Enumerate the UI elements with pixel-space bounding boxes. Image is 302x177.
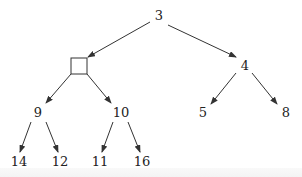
tree-edges xyxy=(20,22,277,152)
node-5: 5 xyxy=(199,105,207,120)
node-3: 3 xyxy=(155,8,163,23)
bottom-shadow xyxy=(0,168,302,177)
tree-diagram: 349105814121116 xyxy=(0,0,302,177)
tree-nodes: 349105814121116 xyxy=(11,8,290,169)
edge-empty-n9 xyxy=(46,74,71,103)
edge-n9-n12 xyxy=(46,122,58,152)
node-16: 16 xyxy=(134,154,151,169)
edge-n4-n8 xyxy=(252,73,277,104)
edge-root-empty xyxy=(88,22,150,57)
node-4: 4 xyxy=(241,58,249,73)
node-8: 8 xyxy=(282,105,290,120)
edge-n10-n11 xyxy=(102,122,113,152)
node-14: 14 xyxy=(11,154,28,169)
edge-root-n4 xyxy=(168,25,236,57)
node-12: 12 xyxy=(52,154,69,169)
node-11: 11 xyxy=(92,154,109,169)
edge-n4-n5 xyxy=(211,73,236,104)
node-9: 9 xyxy=(34,105,42,120)
edge-n9-n14 xyxy=(20,122,31,152)
edge-n10-n16 xyxy=(128,122,140,152)
node-10: 10 xyxy=(113,105,130,120)
empty-node-box xyxy=(71,58,87,74)
edge-empty-n10 xyxy=(87,74,111,103)
